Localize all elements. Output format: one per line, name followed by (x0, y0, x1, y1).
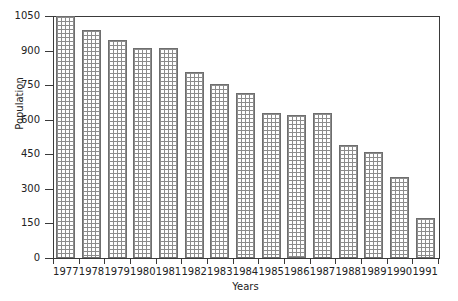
x-tick (207, 258, 208, 264)
x-tick (284, 258, 285, 264)
y-tick (45, 258, 53, 259)
x-tick (104, 258, 105, 264)
y-tick (45, 85, 53, 86)
y-tick-label: 600 (0, 115, 40, 125)
bar-1981 (159, 48, 178, 258)
y-axis-label: Population (14, 49, 25, 159)
y-tick (45, 154, 53, 155)
y-tick-label: 150 (0, 218, 40, 228)
y-tick-label: 750 (0, 80, 40, 90)
y-tick-label: 450 (0, 149, 40, 159)
bar-1987 (313, 113, 332, 258)
x-tick (156, 258, 157, 264)
x-tick (258, 258, 259, 264)
bar-1991 (416, 218, 435, 258)
y-tick-label: 300 (0, 184, 40, 194)
y-tick-label: 1050 (0, 11, 40, 21)
x-tick (181, 258, 182, 264)
bar-1978 (82, 30, 101, 258)
bar-1985 (262, 113, 281, 258)
bar-1986 (287, 115, 306, 258)
x-tick-label: 1991 (405, 266, 445, 277)
y-tick (45, 120, 53, 121)
bar-1983 (210, 84, 229, 258)
y-tick (45, 16, 53, 17)
bar-1990 (390, 177, 409, 258)
y-tick-label: 0 (0, 253, 40, 263)
bar-1977 (56, 16, 75, 258)
x-tick (310, 258, 311, 264)
y-tick-label: 900 (0, 46, 40, 56)
x-tick (130, 258, 131, 264)
bar-1980 (133, 48, 152, 258)
x-tick (361, 258, 362, 264)
x-tick (233, 258, 234, 264)
bar-1984 (236, 93, 255, 258)
y-tick (45, 223, 53, 224)
x-tick (438, 258, 439, 264)
x-tick (53, 258, 54, 264)
bar-chart: Population 01503004506007509001050 19771… (0, 0, 458, 301)
bar-1988 (339, 145, 358, 258)
x-axis-label: Years (53, 281, 438, 292)
y-tick (45, 189, 53, 190)
x-tick (412, 258, 413, 264)
x-tick (387, 258, 388, 264)
bar-1979 (108, 40, 127, 258)
y-tick (45, 51, 53, 52)
bar-1989 (364, 152, 383, 258)
x-tick (335, 258, 336, 264)
x-tick (79, 258, 80, 264)
bar-1982 (185, 72, 204, 258)
